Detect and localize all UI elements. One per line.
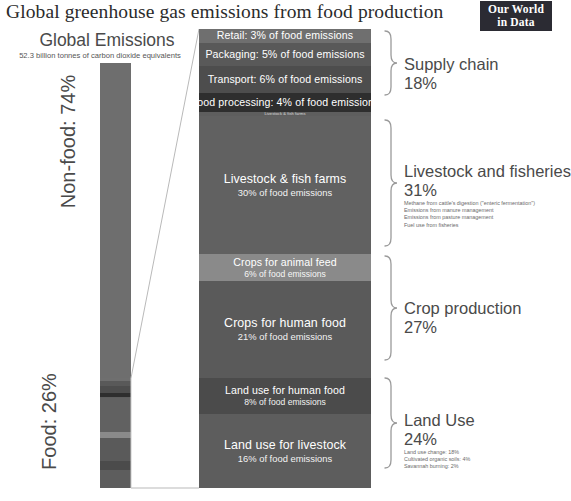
segment-sublabel: 21% of food emissions xyxy=(238,331,332,343)
global-emissions-heading: Global Emissions xyxy=(22,30,192,51)
segment-retail: Retail: 3% of food emissions xyxy=(199,29,371,43)
food-share-label: Food: 26% xyxy=(38,367,61,477)
annotation-percent: 24% xyxy=(404,430,475,449)
segment-sublabel: 8% of food emissions xyxy=(244,397,326,408)
annotation-note: Cultivated organic soils: 4% xyxy=(404,456,475,463)
annotation-title: Crop production xyxy=(404,299,521,318)
left-bar-band-animal-feed xyxy=(100,432,131,439)
segment-sublabel: 16% of food emissions xyxy=(238,453,332,465)
segment-label: Land use for livestock xyxy=(224,438,346,453)
page-title: Global greenhouse gas emissions from foo… xyxy=(6,1,482,23)
segment-label: Land use for human food xyxy=(225,384,345,397)
left-bar-band-transport xyxy=(100,386,131,393)
our-world-in-data-logo: Our World in Data xyxy=(480,1,552,31)
left-bar-non-food xyxy=(100,63,131,378)
brace-livestock xyxy=(385,120,397,246)
segment-land-human: Land use for human food8% of food emissi… xyxy=(199,378,371,415)
annotation-supply-chain: Supply chain 18% xyxy=(404,55,498,93)
segment-label: Packaging: 5% of food emissions xyxy=(205,48,364,61)
segment-transport: Transport: 6% of food emissions xyxy=(199,66,371,94)
segment-sublabel: 30% of food emissions xyxy=(238,187,332,199)
non-food-share-label: Non-food: 74% xyxy=(57,37,80,247)
annotation-note: Land use change: 18% xyxy=(404,449,475,456)
annotation-crop-production: Crop production 27% xyxy=(404,299,521,337)
left-bar-band-land-human xyxy=(100,461,131,470)
segment-label: Crops for human food xyxy=(224,316,346,331)
global-emissions-subheading: 52.3 billion tonnes of carbon dioxide eq… xyxy=(6,51,194,60)
logo-line-2: in Data xyxy=(480,16,552,29)
annotation-livestock-fisheries: Livestock and fisheries 31% Methane from… xyxy=(404,162,571,229)
left-bar-band-livestock xyxy=(100,398,131,431)
annotation-note: Methane from cattle's digestion ("enteri… xyxy=(404,200,571,207)
annotation-percent: 27% xyxy=(404,318,521,337)
segment-label: Retail: 3% of food emissions xyxy=(217,29,353,42)
segment-packaging: Packaging: 5% of food emissions xyxy=(199,43,371,66)
annotation-title: Land Use xyxy=(404,411,475,430)
brace-crop xyxy=(385,256,397,360)
segment-human-crops: Crops for human food21% of food emission… xyxy=(199,281,371,377)
segment-land-livestock: Land use for livestock16% of food emissi… xyxy=(199,414,371,487)
logo-line-1: Our World xyxy=(488,3,544,15)
brace-land-use xyxy=(385,378,397,468)
annotation-note: Emissions from pasture management xyxy=(404,214,571,221)
left-bar-band-land-livestock xyxy=(100,470,131,488)
food-emissions-breakdown-column: Retail: 3% of food emissionsPackaging: 5… xyxy=(199,29,371,488)
annotation-note: Savannah burning: 2% xyxy=(404,463,475,470)
segment-food-processing: Food processing: 4% of food emissions xyxy=(199,93,371,111)
annotation-title: Supply chain xyxy=(404,55,498,74)
segment-label: Transport: 6% of food emissions xyxy=(208,73,363,86)
segment-label: Food processing: 4% of food emissions xyxy=(199,96,371,109)
global-emissions-bar xyxy=(100,63,131,488)
annotation-note: Emissions from manure management xyxy=(404,207,571,214)
annotation-land-use: Land Use 24% Land use change: 18% Cultiv… xyxy=(404,411,475,471)
annotation-title: Livestock and fisheries xyxy=(404,162,571,181)
segment-sublabel: 6% of food emissions xyxy=(244,269,326,280)
annotation-percent: 31% xyxy=(404,181,571,200)
brace-supply-chain xyxy=(385,31,397,95)
annotation-note: Fuel use from fisheries xyxy=(404,222,571,229)
annotation-percent: 18% xyxy=(404,74,498,93)
segment-livestock: Livestock & fish farms30% of food emissi… xyxy=(199,116,371,254)
segment-animal-feed: Crops for animal feed6% of food emission… xyxy=(199,254,371,282)
left-bar-band-human-crops xyxy=(100,438,131,461)
segment-label: Crops for animal feed xyxy=(233,256,336,269)
segment-label: Livestock & fish farms xyxy=(224,172,347,187)
